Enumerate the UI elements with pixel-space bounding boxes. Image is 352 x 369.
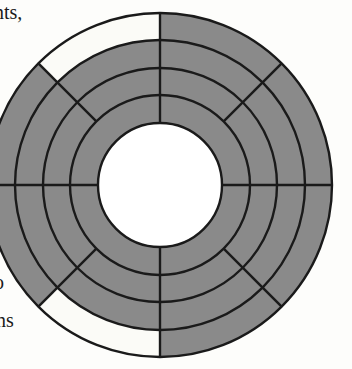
figure-root: nts, o ns xyxy=(0,0,352,369)
radial-sector-diagram xyxy=(0,0,352,369)
